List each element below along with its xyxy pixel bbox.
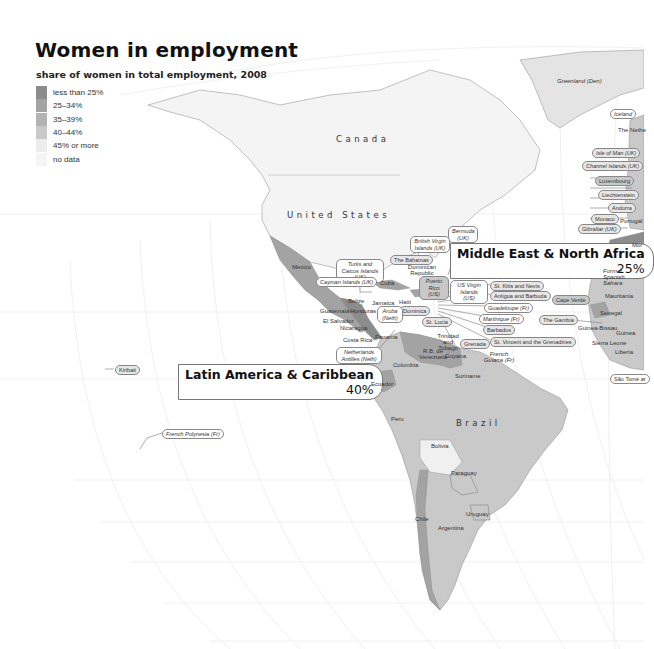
label-french-polynesia: French Polynesia (Fr) bbox=[162, 429, 224, 439]
label-venezuela: R.B. de Venezuela bbox=[418, 348, 448, 360]
legend-label: 45% or more bbox=[53, 141, 99, 150]
label-barbados: Barbados bbox=[483, 325, 515, 335]
label-kiribati: Kiribati bbox=[115, 365, 140, 375]
label-dominican-republic: Dominican Republic bbox=[406, 264, 438, 276]
label-bvi: British Virgin Islands (UK) bbox=[410, 236, 450, 253]
label-canada: Canada bbox=[336, 134, 389, 144]
label-panama: Panama bbox=[375, 334, 397, 340]
label-neth-antilles: Netherlands Antilles (Neth) bbox=[336, 347, 382, 364]
label-bermuda: Bermuda (UK) bbox=[448, 226, 478, 243]
label-liberia: Liberia bbox=[615, 349, 633, 355]
legend-item: 35–39% bbox=[36, 113, 103, 126]
label-honduras: Honduras bbox=[350, 308, 376, 314]
label-sao-tome: São Tomé ar bbox=[610, 374, 650, 384]
label-puerto-rico: Puerto Rico (US) bbox=[419, 276, 449, 300]
label-nicaragua: Nicaragua bbox=[340, 325, 367, 331]
label-liechtenstein: Liechtenstein bbox=[598, 190, 639, 200]
label-luxembourg: Luxembourg bbox=[595, 176, 634, 186]
label-haiti: Haiti bbox=[399, 299, 411, 305]
label-guinea: Guinea bbox=[616, 330, 635, 336]
legend-swatch bbox=[36, 86, 47, 99]
region-value: 40% bbox=[185, 382, 374, 397]
label-argentina: Argentina bbox=[438, 525, 464, 531]
label-guyana: Guyana bbox=[445, 353, 466, 359]
legend-swatch bbox=[36, 99, 47, 112]
label-monaco: Monaco bbox=[591, 214, 619, 224]
label-guatemala: Guatemala bbox=[320, 308, 349, 314]
label-french-guiana: French Guiana (Fr) bbox=[482, 351, 516, 363]
label-bolivia: Bolivia bbox=[431, 443, 449, 449]
region-name: Latin America & Caribbean bbox=[185, 367, 374, 382]
label-st-kitts: St. Kitts and Nevis bbox=[490, 281, 544, 291]
label-costa-rica: Costa Rica bbox=[343, 337, 372, 343]
legend-swatch bbox=[36, 113, 47, 126]
map-subtitle: share of women in total employment, 2008 bbox=[36, 69, 267, 80]
label-st-lucia: St. Lucia bbox=[422, 317, 452, 327]
label-suriname: Suriname bbox=[455, 373, 481, 379]
legend-label: 25–34% bbox=[53, 101, 82, 110]
legend-label: no data bbox=[53, 155, 80, 164]
label-usvi: US Virgin Islands (US) bbox=[450, 280, 488, 304]
label-st-vincent: St. Vincent and the Grenadines bbox=[490, 337, 576, 347]
label-sierra-leone: Sierra Leone bbox=[592, 340, 626, 346]
label-guadeloupe: Guadeloupe (Fr) bbox=[484, 303, 533, 313]
label-ecuador: Ecuador bbox=[371, 381, 393, 387]
label-el-salvador: El Salvador bbox=[323, 318, 354, 324]
legend-label: less than 25% bbox=[53, 88, 103, 97]
region-callout-latin-america: Latin America & Caribbean 40% bbox=[178, 364, 383, 400]
label-paraguay: Paraguay bbox=[451, 470, 477, 476]
legend-item: less than 25% bbox=[36, 86, 103, 99]
label-colombia: Colombia bbox=[393, 362, 418, 368]
legend-swatch bbox=[36, 139, 47, 152]
label-dominica: Dominica bbox=[399, 306, 430, 316]
label-gibraltar: Gibraltar (UK) bbox=[578, 224, 621, 234]
label-grenada: Grenada bbox=[460, 339, 490, 349]
legend-label: 35–39% bbox=[53, 115, 82, 124]
label-andorra: Andorra bbox=[608, 203, 636, 213]
label-mauritania: Mauritania bbox=[605, 293, 633, 299]
legend-swatch bbox=[36, 153, 47, 166]
label-aruba: Aruba (Neth) bbox=[377, 306, 403, 323]
label-peru: Peru bbox=[391, 416, 404, 422]
label-brazil: Brazil bbox=[456, 418, 501, 428]
label-cuba: Cuba bbox=[380, 280, 394, 286]
label-gambia: The Gambia bbox=[539, 315, 578, 325]
legend-item: 25–34% bbox=[36, 99, 103, 112]
label-portugal: Portugal bbox=[620, 218, 642, 224]
label-western-sahara: Former Spanish Sahara bbox=[603, 268, 627, 286]
legend-label: 40–44% bbox=[53, 128, 82, 137]
label-netherlands: The Nethe bbox=[618, 127, 646, 133]
label-senegal: Senegal bbox=[600, 310, 622, 316]
label-iceland: Iceland bbox=[610, 109, 636, 119]
label-channel-islands: Channel Islands (UK) bbox=[582, 161, 643, 171]
label-united-states: United States bbox=[287, 210, 390, 220]
label-martinique: Martinique (Fr) bbox=[479, 314, 524, 324]
label-uruguay: Uruguay bbox=[466, 511, 489, 517]
label-cape-verde: Cape Verde bbox=[552, 295, 590, 305]
legend-item: no data bbox=[36, 152, 103, 165]
legend-item: 45% or more bbox=[36, 139, 103, 152]
label-morocco: Mor bbox=[632, 242, 642, 248]
label-cayman: Cayman Islands (UK) bbox=[316, 277, 377, 287]
label-belize: Belize bbox=[348, 298, 364, 304]
label-greenland: Greenland (Den) bbox=[557, 78, 602, 84]
label-mexico: Mexico bbox=[292, 264, 311, 270]
label-chile: Chile bbox=[415, 516, 429, 522]
legend-swatch bbox=[36, 126, 47, 139]
map-title: Women in employment bbox=[35, 38, 298, 62]
label-antigua: Antigua and Barbuda bbox=[490, 291, 551, 301]
label-guinea-bissau: Guinea-Bissau bbox=[578, 325, 617, 331]
label-isle-of-man: Isle of Man (UK) bbox=[592, 148, 640, 158]
legend-item: 40–44% bbox=[36, 126, 103, 139]
legend: less than 25% 25–34% 35–39% 40–44% 45% o… bbox=[36, 86, 103, 166]
region-name: Middle East & North Africa bbox=[457, 246, 645, 261]
